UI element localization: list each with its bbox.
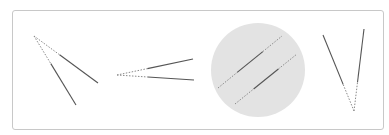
angle-figure-1 — [34, 36, 98, 105]
ray-solid-segment — [60, 55, 98, 83]
figures-svg — [0, 0, 389, 135]
ray-solid-segment — [147, 59, 193, 69]
ray-solid-segment — [358, 29, 365, 82]
ray-dashed-segment — [354, 82, 358, 111]
ray-solid-segment — [51, 64, 76, 105]
ray-dashed-segment — [34, 36, 51, 64]
gray-circle — [211, 23, 305, 117]
ray-solid-segment — [323, 35, 343, 84]
ray-solid-segment — [148, 77, 194, 80]
ray-dashed-segment — [343, 84, 354, 111]
parallel-lines-circle-figure — [211, 23, 305, 117]
ray-dashed-segment — [117, 75, 148, 77]
ray-dashed-segment — [34, 36, 60, 55]
angle-figure-2 — [117, 59, 194, 80]
ray-dashed-segment — [117, 69, 147, 75]
angle-figure-3 — [323, 29, 364, 111]
diagram-canvas: Geometric figures: angles and parallel l… — [0, 0, 389, 135]
